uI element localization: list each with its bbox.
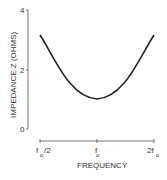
- x-tick-2f0: 2f o: [147, 146, 160, 158]
- x-tick-f0-half: f o /2: [36, 146, 51, 158]
- impedance-curve: [40, 35, 154, 99]
- svg-text:o: o: [96, 152, 100, 158]
- y-tick-2: 2: [20, 66, 25, 75]
- svg-text:/2: /2: [44, 146, 51, 155]
- impedance-chart: 4 2 0 IMPEDANCE Z (OHMS) f o /2 f o 2f o…: [0, 0, 167, 180]
- svg-text:o: o: [156, 152, 160, 158]
- svg-text:2f: 2f: [147, 146, 154, 155]
- y-tick-0: 0: [20, 125, 25, 134]
- x-axis-label: FREQUENCY: [77, 161, 128, 170]
- x-tick-f0: f o: [95, 146, 100, 158]
- svg-text:f: f: [36, 146, 39, 155]
- y-tick-4: 4: [20, 6, 25, 15]
- y-axis-label: IMPEDANCE Z (OHMS): [9, 31, 18, 118]
